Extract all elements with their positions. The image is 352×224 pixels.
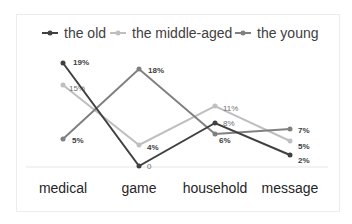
svg-text:19%: 19% [73, 58, 89, 67]
series-old: 19% 0 8% 2% [61, 58, 310, 171]
svg-text:the old: the old [64, 25, 106, 41]
svg-text:5%: 5% [72, 136, 84, 145]
legend-item-old: the old [42, 25, 106, 41]
svg-text:18%: 18% [148, 66, 164, 75]
legend-item-young: the young [235, 25, 319, 41]
svg-text:5%: 5% [298, 142, 310, 151]
svg-text:8%: 8% [223, 119, 235, 128]
x-label-household: household [183, 180, 248, 196]
x-label-game: game [121, 180, 156, 196]
svg-text:4%: 4% [147, 143, 159, 152]
x-label-message: message [262, 180, 319, 196]
svg-text:the young: the young [257, 25, 319, 41]
svg-text:0: 0 [147, 162, 152, 171]
svg-text:11%: 11% [223, 104, 238, 113]
line-chart: the old the middle-aged the young 15% 4%… [0, 0, 352, 224]
x-label-medical: medical [39, 180, 87, 196]
series-middle-aged: 15% 4% 11% 5% [61, 83, 310, 153]
svg-text:2%: 2% [298, 156, 310, 165]
svg-text:7%: 7% [298, 126, 310, 135]
x-axis-labels: medical game household message [39, 180, 319, 196]
legend: the old the middle-aged the young [42, 25, 319, 41]
svg-text:6%: 6% [219, 136, 231, 145]
legend-item-middle-aged: the middle-aged [110, 25, 232, 41]
svg-text:the middle-aged: the middle-aged [132, 25, 232, 41]
